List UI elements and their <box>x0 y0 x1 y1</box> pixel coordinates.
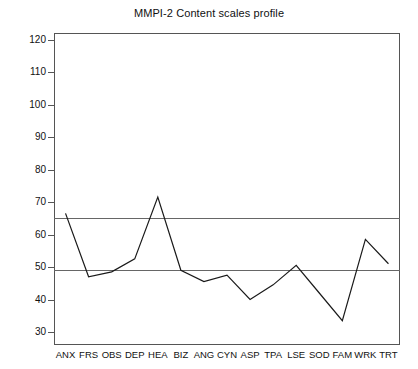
chart-title: MMPI-2 Content scales profile <box>0 7 418 19</box>
data-series-line <box>66 197 389 321</box>
reference-lines <box>54 218 400 270</box>
y-tick-label: 40 <box>20 295 46 305</box>
y-tick-label: 100 <box>20 100 46 110</box>
y-tick-mark <box>48 40 54 41</box>
y-tick-mark <box>48 202 54 203</box>
y-tick-label: 80 <box>20 165 46 175</box>
y-axis: 30405060708090100110120 <box>14 0 46 369</box>
profile-polyline <box>66 197 389 321</box>
y-tick-mark <box>48 267 54 268</box>
y-tick-mark <box>48 332 54 333</box>
y-tick-label: 70 <box>20 197 46 207</box>
y-tick-label: 110 <box>20 67 46 77</box>
chart-container: MMPI-2 Content scales profile 3040506070… <box>0 0 418 369</box>
y-tick-mark <box>48 105 54 106</box>
x-tick-label-trt: TRT <box>371 349 405 361</box>
x-axis: ANXFRSOBSDEPHEABIZANGCYNASPTPALSESODFAMW… <box>54 349 400 365</box>
plot-area <box>54 33 400 345</box>
y-tick-mark <box>48 235 54 236</box>
y-tick-mark <box>48 300 54 301</box>
y-tick-label: 90 <box>20 132 46 142</box>
y-tick-mark <box>48 170 54 171</box>
y-tick-mark <box>48 137 54 138</box>
y-tick-label: 50 <box>20 262 46 272</box>
y-tick-label: 120 <box>20 35 46 45</box>
y-tick-label: 30 <box>20 327 46 337</box>
y-tick-mark <box>48 72 54 73</box>
y-tick-label: 60 <box>20 230 46 240</box>
